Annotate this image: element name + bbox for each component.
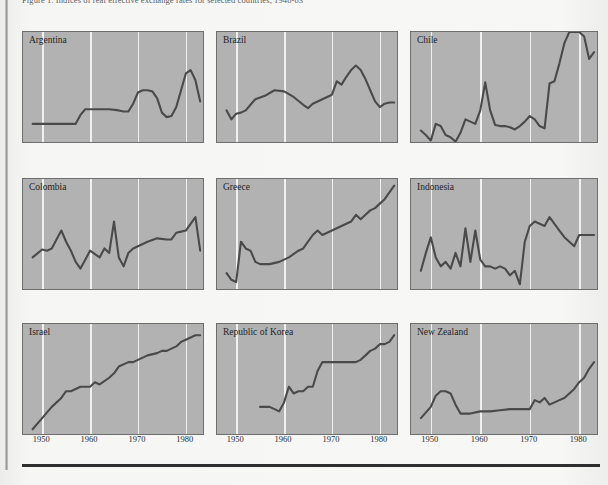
- panel-greece: Greece: [216, 178, 398, 290]
- bottom-horizontal-rule: [22, 464, 600, 467]
- panel-colombia: Colombia: [22, 178, 204, 290]
- small-multiples-grid: ArgentinaBrazilChileColombiaGreeceIndone…: [0, 0, 608, 460]
- x-tick-label: 1970: [520, 434, 537, 444]
- chart-plot-area: Israel: [22, 323, 204, 435]
- panel-title: Indonesia: [417, 182, 454, 192]
- x-tick-label: 1970: [128, 434, 145, 444]
- panel-republic-of-korea: Republic of Korea: [216, 323, 398, 435]
- x-tick-label: 1960: [471, 434, 488, 444]
- series-line-3: [23, 179, 204, 290]
- x-tick-label: 1950: [227, 434, 244, 444]
- x-axis-1: 1950196019701980: [216, 434, 398, 448]
- series-line-1: [217, 32, 398, 143]
- x-tick-label: 1980: [570, 434, 587, 444]
- panel-title: Colombia: [29, 182, 66, 192]
- chart-plot-area: Chile: [410, 31, 598, 143]
- panel-title: Chile: [417, 35, 438, 45]
- x-tick-label: 1980: [370, 434, 387, 444]
- panel-title: Republic of Korea: [223, 327, 293, 337]
- series-line-7: [217, 324, 398, 435]
- x-tick-label: 1970: [322, 434, 339, 444]
- chart-plot-area: Colombia: [22, 178, 204, 290]
- x-axis-0: 1950196019701980: [22, 434, 204, 448]
- panel-title: Argentina: [29, 35, 67, 45]
- chart-plot-area: Brazil: [216, 31, 398, 143]
- x-tick-label: 1960: [275, 434, 292, 444]
- x-tick-label: 1960: [81, 434, 98, 444]
- x-tick-label: 1980: [176, 434, 193, 444]
- chart-plot-area: Republic of Korea: [216, 323, 398, 435]
- panel-title: Israel: [29, 327, 50, 337]
- panel-israel: Israel: [22, 323, 204, 435]
- series-line-6: [23, 324, 204, 435]
- chart-plot-area: Indonesia: [410, 178, 598, 290]
- series-line-4: [217, 179, 398, 290]
- panel-brazil: Brazil: [216, 31, 398, 143]
- chart-plot-area: Greece: [216, 178, 398, 290]
- series-line-2: [411, 32, 598, 143]
- chart-plot-area: Argentina: [22, 31, 204, 143]
- chart-plot-area: New Zealand: [410, 323, 598, 435]
- panel-new-zealand: New Zealand: [410, 323, 598, 435]
- panel-title: Brazil: [223, 35, 246, 45]
- x-tick-label: 1950: [33, 434, 50, 444]
- panel-title: Greece: [223, 182, 250, 192]
- panel-argentina: Argentina: [22, 31, 204, 143]
- panel-title: New Zealand: [417, 327, 468, 337]
- panel-chile: Chile: [410, 31, 598, 143]
- x-tick-label: 1950: [421, 434, 438, 444]
- series-line-5: [411, 179, 598, 290]
- panel-indonesia: Indonesia: [410, 178, 598, 290]
- x-axis-2: 1950196019701980: [410, 434, 598, 448]
- series-line-8: [411, 324, 598, 435]
- series-line-0: [23, 32, 204, 143]
